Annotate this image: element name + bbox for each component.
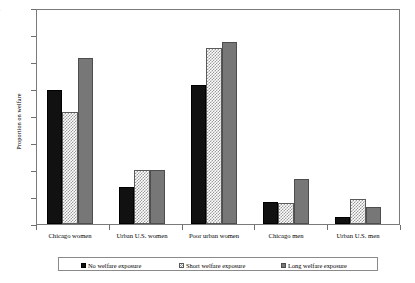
legend-swatch-icon bbox=[179, 263, 184, 268]
bar bbox=[134, 170, 150, 224]
bar bbox=[150, 170, 166, 224]
x-tick-label: Urban U.S. men bbox=[337, 232, 380, 239]
bar bbox=[335, 217, 351, 224]
bar-group bbox=[335, 11, 382, 224]
bar bbox=[78, 58, 94, 224]
plot-area bbox=[36, 9, 400, 225]
x-tick-label: Chicago men bbox=[269, 232, 304, 239]
bar bbox=[191, 85, 207, 224]
bar bbox=[47, 90, 63, 224]
legend-label: Short welfare exposure bbox=[186, 262, 245, 269]
legend-swatch-icon bbox=[81, 263, 86, 268]
bar bbox=[62, 112, 78, 224]
x-tick-label: Chicago women bbox=[48, 232, 91, 239]
bar bbox=[206, 48, 222, 224]
x-tick-mark bbox=[182, 225, 183, 230]
bar bbox=[350, 199, 366, 224]
legend-label: No welfare exposure bbox=[88, 262, 141, 269]
x-axis-ticks bbox=[36, 225, 400, 231]
bar bbox=[278, 203, 294, 224]
x-axis-labels: Chicago womenUrban U.S. womenPoor urban … bbox=[36, 232, 400, 246]
bar-chart: Proportion on welfare 00.050.10.150.20.2… bbox=[0, 0, 415, 283]
x-tick-mark bbox=[327, 225, 328, 230]
x-tick-mark bbox=[36, 225, 37, 230]
bar-groups bbox=[38, 11, 398, 224]
bar-group bbox=[47, 11, 94, 224]
bar bbox=[294, 179, 310, 224]
bar bbox=[263, 202, 279, 224]
legend-item: Short welfare exposure bbox=[179, 260, 245, 270]
bar bbox=[222, 42, 238, 224]
chart-legend: No welfare exposureShort welfare exposur… bbox=[58, 257, 378, 271]
bar bbox=[366, 207, 382, 224]
bar bbox=[119, 187, 135, 224]
x-tick-mark bbox=[254, 225, 255, 230]
legend-label: Long welfare exposure bbox=[288, 262, 347, 269]
bar-group bbox=[191, 11, 238, 224]
bar-group bbox=[119, 11, 166, 224]
legend-item: No welfare exposure bbox=[81, 260, 141, 270]
x-tick-label: Urban U.S. women bbox=[117, 232, 168, 239]
x-tick-mark bbox=[109, 225, 110, 230]
legend-item: Long welfare exposure bbox=[281, 260, 347, 270]
legend-swatch-icon bbox=[281, 263, 286, 268]
x-tick-label: Poor urban women bbox=[189, 232, 239, 239]
bar-group bbox=[263, 11, 310, 224]
x-tick-mark bbox=[400, 225, 401, 230]
